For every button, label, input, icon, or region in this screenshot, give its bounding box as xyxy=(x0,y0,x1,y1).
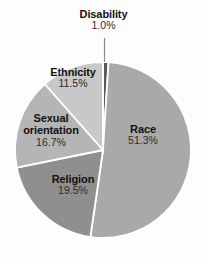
pie-label-ethnicity: Ethnicity 11.5% xyxy=(30,66,116,90)
pie-label-ethnicity-value: 11.5% xyxy=(30,78,116,90)
pie-chart: Disability 1.0% Race 51.3% Religion 19.5… xyxy=(0,0,207,257)
pie-label-religion: Religion 19.5% xyxy=(30,173,116,197)
pie-label-sexual-orientation-line2: orientation xyxy=(4,124,98,136)
pie-label-disability: Disability 1.0% xyxy=(0,8,207,32)
pie-label-disability-value: 1.0% xyxy=(0,20,207,32)
pie-label-sexual-orientation-value: 16.7% xyxy=(4,137,98,149)
pie-label-sexual-orientation-line1: Sexual xyxy=(34,112,69,124)
pie-label-race-value: 51.3% xyxy=(104,135,182,147)
pie-label-sexual-orientation: Sexual orientation 16.7% xyxy=(4,112,98,148)
pie-label-sexual-orientation-category: Sexual orientation xyxy=(4,112,98,137)
pie-label-religion-value: 19.5% xyxy=(30,185,116,197)
pie-label-race: Race 51.3% xyxy=(104,123,182,147)
